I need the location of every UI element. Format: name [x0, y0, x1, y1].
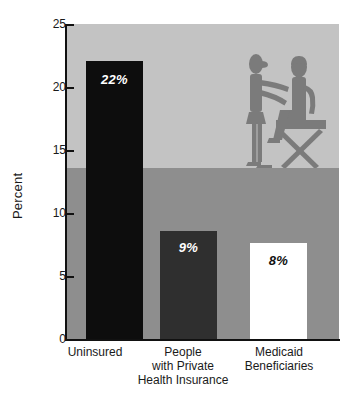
x-axis-label-uninsured: Uninsured: [48, 345, 142, 359]
y-axis-title: Percent: [6, 150, 30, 242]
x-axis-label-medicaid: Medicaid Beneficiaries: [229, 345, 329, 373]
x-axis-label-private-line-3: Health Insurance: [134, 373, 232, 387]
y-tick-5: [67, 276, 74, 278]
bar-value-private: 9%: [160, 240, 217, 255]
bar-uninsured: 22%: [86, 61, 143, 339]
y-tick-label-15: 15: [40, 144, 66, 156]
y-tick-label-25: 25: [40, 18, 66, 30]
y-tick-label-0: 0: [40, 333, 66, 345]
x-axis-label-medicaid-line-2: Beneficiaries: [229, 359, 329, 373]
bar-value-uninsured: 22%: [86, 72, 143, 87]
y-tick-label-5: 5: [40, 270, 66, 282]
bar-people-with-private-health-insurance: 9%: [160, 231, 217, 339]
x-axis-label-uninsured-line-1: Uninsured: [48, 345, 142, 359]
y-axis-line: [65, 24, 67, 340]
x-axis-label-private-insurance: People with Private Health Insurance: [134, 345, 232, 387]
bar-medicaid-beneficiaries: 8%: [250, 243, 307, 339]
y-tick-25: [67, 24, 74, 26]
x-axis-line: [65, 339, 340, 341]
x-axis-label-medicaid-line-1: Medicaid: [229, 345, 329, 359]
y-tick-10: [67, 213, 74, 215]
y-tick-15: [67, 150, 74, 152]
y-tick-label-20: 20: [40, 81, 66, 93]
bar-chart-figure: Percent: [0, 0, 361, 402]
y-tick-label-10: 10: [40, 207, 66, 219]
y-tick-20: [67, 87, 74, 89]
bar-value-medicaid: 8%: [250, 253, 307, 268]
x-axis-label-private-line-2: with Private: [134, 359, 232, 373]
doctor-patient-illustration: [236, 52, 336, 168]
plot-area: 22% 9% 8%: [66, 24, 339, 339]
x-axis-label-private-line-1: People: [134, 345, 232, 359]
